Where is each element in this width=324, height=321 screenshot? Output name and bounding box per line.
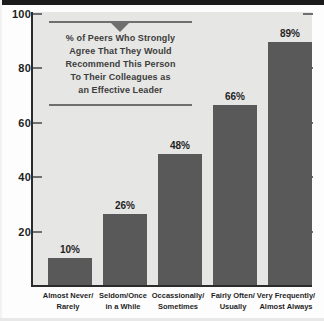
top-edge-band <box>0 0 324 5</box>
callout-line-1: % of Peers Who Strongly <box>49 32 192 45</box>
bar-value-2: 48% <box>150 140 210 151</box>
y-tick-label-60: 60 <box>5 117 31 129</box>
y-axis: 100 80 60 40 20 <box>0 0 31 321</box>
y-tick-label-80: 80 <box>5 62 31 74</box>
callout-line-3: Recommend This Person <box>49 58 192 71</box>
bar-occassionally-sometimes[interactable] <box>158 154 202 285</box>
x-label-4-line2: Almost Always <box>255 302 317 313</box>
x-label-2: Occassionally/ Sometimes <box>147 291 209 312</box>
x-label-2-line1: Occassionally/ <box>147 291 209 302</box>
bar-fairly-often-usually[interactable] <box>213 105 257 285</box>
callout-bottom-rule <box>49 104 192 106</box>
y-tick-label-40: 40 <box>5 171 31 183</box>
callout-pointer-triangle-icon <box>111 23 129 32</box>
bar-very-frequently-almost-always[interactable] <box>268 42 312 285</box>
callout-line-5: an Effective Leader <box>49 84 192 97</box>
bar-seldom-once-in-a-while[interactable] <box>103 214 147 285</box>
x-label-1-line1: Seldom/Once <box>92 291 154 302</box>
bar-value-3: 66% <box>205 91 265 102</box>
x-label-2-line2: Sometimes <box>147 302 209 313</box>
x-label-1-line2: in a While <box>92 302 154 313</box>
x-label-0-line2: Rarely <box>37 302 99 313</box>
bar-value-4: 89% <box>260 28 320 39</box>
x-label-4-line1: Very Frequently/ <box>255 291 317 302</box>
annotation-callout: % of Peers Who Strongly Agree That They … <box>49 21 192 106</box>
y-tick-label-20: 20 <box>5 226 31 238</box>
x-label-4: Very Frequently/ Almost Always <box>255 291 317 312</box>
x-axis-labels: Almost Never/ Rarely Seldom/Once in a Wh… <box>31 291 314 321</box>
x-label-1: Seldom/Once in a While <box>92 291 154 312</box>
x-label-0: Almost Never/ Rarely <box>37 291 99 312</box>
y-tick-label-100: 100 <box>5 8 31 20</box>
callout-line-4: To Their Colleagues as <box>49 71 192 84</box>
callout-line-2: Agree That They Would <box>49 45 192 58</box>
chart-page: 100 80 60 40 20 10% 26% 48% 66% <box>0 0 324 321</box>
bar-almost-never-rarely[interactable] <box>48 258 92 285</box>
bar-value-1: 26% <box>95 200 155 211</box>
bar-value-0: 10% <box>40 244 100 255</box>
callout-text: % of Peers Who Strongly Agree That They … <box>49 23 192 104</box>
x-label-0-line1: Almost Never/ <box>37 291 99 302</box>
